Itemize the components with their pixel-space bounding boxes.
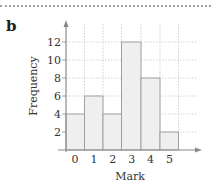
bar-2 — [103, 114, 122, 150]
x-tick-label: 4 — [147, 153, 154, 166]
y-tick-label: 8 — [54, 72, 61, 85]
y-tick-labels: 24681012 — [47, 36, 66, 139]
bar-0 — [66, 114, 85, 150]
x-tick-labels: 012345 — [72, 153, 174, 166]
histogram-chart: 24681012 012345 Mark Frequency — [0, 0, 211, 190]
x-tick-label: 1 — [90, 153, 97, 166]
y-axis-title: Frequency — [27, 55, 40, 115]
y-tick-label: 6 — [54, 90, 61, 103]
x-axis-arrow-icon — [195, 148, 202, 153]
x-tick-label: 5 — [166, 153, 173, 166]
bar-4 — [141, 78, 160, 150]
y-axis-arrow-icon — [64, 20, 69, 27]
x-tick-label: 3 — [128, 153, 135, 166]
bars — [66, 42, 179, 150]
y-tick-label: 4 — [54, 108, 61, 121]
bar-3 — [122, 42, 142, 150]
bar-5 — [160, 132, 179, 150]
x-axis-title: Mark — [115, 170, 145, 183]
x-tick-label: 2 — [109, 153, 116, 166]
bar-1 — [85, 96, 104, 150]
y-tick-label: 2 — [54, 126, 61, 139]
y-tick-label: 12 — [47, 36, 61, 49]
y-tick-label: 10 — [47, 54, 61, 67]
x-tick-label: 0 — [72, 153, 79, 166]
